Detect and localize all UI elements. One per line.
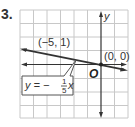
point-label-origin: (0, 0) — [104, 50, 130, 62]
y-axis-label: y — [103, 10, 111, 22]
origin-point — [99, 63, 103, 67]
equation-suffix: x — [67, 79, 74, 91]
point-label-neg5-1: (−5, 1) — [38, 36, 70, 48]
coordinate-graph: y (−5, 1) (0, 0) O y = − 1 5 x — [0, 0, 135, 127]
fraction-denominator: 5 — [62, 86, 67, 95]
equation-prefix: y = − — [24, 79, 50, 91]
fraction-numerator: 1 — [62, 77, 67, 86]
equation-callout: y = − 1 5 x — [22, 60, 76, 95]
origin-label: O — [89, 67, 99, 81]
